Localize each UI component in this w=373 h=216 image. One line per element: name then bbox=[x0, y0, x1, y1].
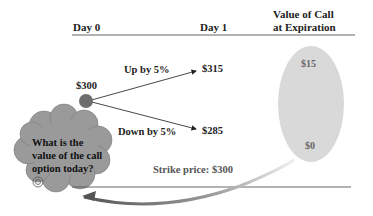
question-line3: option today? bbox=[32, 162, 102, 175]
down-branch-arrow bbox=[88, 101, 196, 129]
payoff-down-value: $0 bbox=[305, 140, 315, 151]
question-line1: What is the bbox=[32, 136, 102, 149]
start-node bbox=[79, 94, 93, 108]
header-value-line2: at Expiration bbox=[273, 21, 336, 34]
header-day0: Day 0 bbox=[73, 21, 100, 34]
payoff-up-value: $15 bbox=[301, 58, 316, 69]
down-label: Down by 5% bbox=[118, 126, 176, 137]
up-label: Up by 5% bbox=[124, 64, 170, 75]
header-day1: Day 1 bbox=[200, 21, 227, 34]
header-value: Value of Call at Expiration bbox=[273, 8, 336, 34]
question-line2: value of the call bbox=[32, 149, 102, 162]
start-price: $300 bbox=[76, 80, 97, 91]
strike-price-label: Strike price: $300 bbox=[153, 164, 233, 175]
down-price: $285 bbox=[202, 125, 223, 136]
up-price: $315 bbox=[202, 63, 223, 74]
question-text: What is the value of the call option tod… bbox=[32, 136, 102, 175]
header-value-line1: Value of Call bbox=[273, 8, 336, 21]
up-branch-arrow bbox=[88, 71, 196, 101]
